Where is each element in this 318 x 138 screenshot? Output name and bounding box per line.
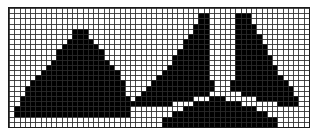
pixel-run xyxy=(235,13,251,18)
pixel-run xyxy=(198,13,209,18)
pixel-run xyxy=(56,49,103,54)
figure-root: Rasterized shapes on a pixel grid A pixe… xyxy=(0,0,318,138)
pixel-run xyxy=(172,111,267,116)
pixel-run xyxy=(198,18,209,23)
pixel-grid-canvas xyxy=(9,8,309,127)
pixel-run xyxy=(230,80,288,85)
pixel-run xyxy=(235,18,251,23)
pixel-grid-frame xyxy=(8,7,310,128)
pixel-run xyxy=(156,75,209,80)
pixel-grid-svg xyxy=(9,8,309,127)
pixel-run xyxy=(235,75,282,80)
pixel-run xyxy=(183,44,209,49)
